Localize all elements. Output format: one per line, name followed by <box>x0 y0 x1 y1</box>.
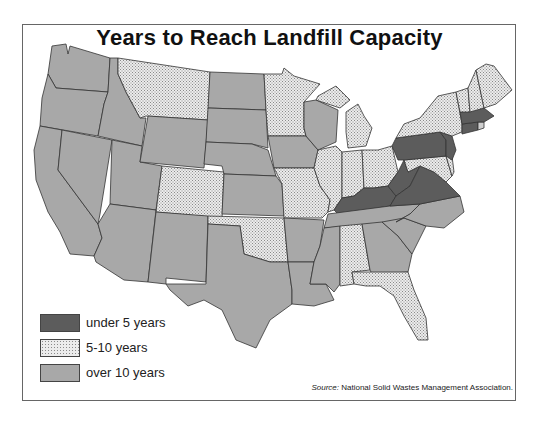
state-new-york <box>396 92 462 138</box>
state-rhode-island <box>478 122 484 130</box>
state-arizona <box>94 204 156 282</box>
state-south-dakota <box>206 108 268 148</box>
state-florida <box>352 272 428 340</box>
legend-item-under5: under 5 years <box>40 310 166 335</box>
state-colorado <box>156 166 224 218</box>
swatch-dotted-icon <box>40 339 80 357</box>
legend: under 5 years 5-10 years over 10 years <box>40 310 166 385</box>
source-note: Source: National Solid Wastes Management… <box>311 383 513 392</box>
legend-label: 5-10 years <box>86 340 147 355</box>
legend-item-5to10: 5-10 years <box>40 335 166 360</box>
state-wyoming <box>140 116 208 168</box>
state-north-dakota <box>208 72 266 110</box>
state-kansas <box>222 174 284 216</box>
swatch-dark-icon <box>40 314 80 332</box>
legend-item-over10: over 10 years <box>40 360 166 385</box>
legend-label: over 10 years <box>86 365 165 380</box>
state-washington <box>48 44 110 92</box>
source-prefix: Source: <box>311 383 339 392</box>
swatch-gray-icon <box>40 364 80 382</box>
source-text: National Solid Wastes Management Associa… <box>341 383 513 392</box>
state-new-mexico <box>148 212 208 284</box>
legend-label: under 5 years <box>86 315 166 330</box>
